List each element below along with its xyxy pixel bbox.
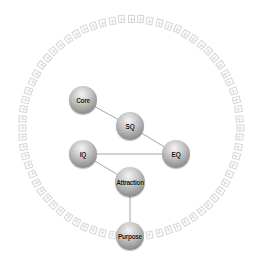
node-label-sq: SQ (126, 123, 135, 130)
node-purpose: Purpose (116, 222, 144, 250)
node-eq: EQ (162, 140, 190, 168)
node-label-eq: EQ (172, 151, 181, 158)
node-iq: IQ (69, 140, 97, 168)
diagram-canvas: Core SQ EQ IQ Attraction Purpose (0, 0, 258, 262)
node-label-attraction: Attraction (116, 179, 144, 186)
node-label-core: Core (76, 97, 90, 104)
node-sq: SQ (116, 112, 144, 140)
node-core: Core (69, 86, 97, 114)
node-label-purpose: Purpose (118, 233, 142, 240)
node-label-iq: IQ (80, 151, 86, 158)
node-attraction: Attraction (115, 167, 145, 197)
